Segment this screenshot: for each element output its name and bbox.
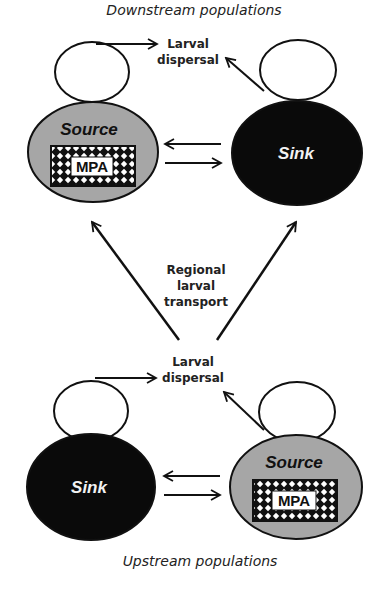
transport-label-line1: Regional [166,263,225,277]
dispersal-arrow-top-right [226,58,264,91]
transport-arrow-to-sink [217,222,296,340]
dispersal-label-top-line1: Larval [167,37,209,51]
source-label-top: Source [60,120,118,139]
transport-label-line3: transport [164,295,228,309]
source-label-bottom: Source [265,453,323,472]
self-loop-top-right [260,40,336,100]
self-loop-bottom-right [259,382,335,442]
dispersal-label-bottom-line1: Larval [172,355,214,369]
upstream-caption: Upstream populations [123,553,278,569]
transport-label-line2: larval [177,279,215,293]
dispersal-label-bottom-line2: dispersal [162,371,224,385]
dispersal-label-top-line2: dispersal [157,53,219,67]
node-sink-top: Sink [232,101,362,205]
self-loop-bottom-left [54,381,128,441]
node-source-bottom: Source MPA [230,435,362,539]
node-sink-bottom: Sink [27,434,155,540]
sink-label-bottom: Sink [71,478,108,497]
dispersal-arrow-bottom-right [224,392,264,430]
mpa-label-top: MPA [76,158,108,175]
transport-arrow-to-source [92,222,179,340]
self-loop-top-left [55,42,129,102]
source-sink-diagram: Downstream populations Larval dispersal … [0,0,388,590]
downstream-caption: Downstream populations [106,2,281,18]
node-source-top: Source MPA [28,102,158,202]
mpa-label-bottom: MPA [278,492,310,509]
sink-label-top: Sink [278,144,315,163]
